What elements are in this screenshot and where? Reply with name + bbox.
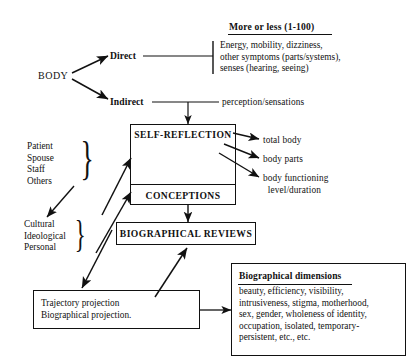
box-internal-divider [131,184,235,185]
biographical-reviews-label: BIOGRAPHICAL REVIEWS [116,228,256,239]
arrow-down-to-trajectory [82,230,112,288]
influence-group-persons: Patient Spouse Staff Others [27,141,54,187]
arrow-to-total-body [233,133,259,139]
biographical-dimensions-underline [238,284,352,285]
biographical-dimensions-body: beauty, efficiency, visibility, intrusiv… [239,286,369,344]
biographical-dimensions-heading: Biographical dimensions [239,271,341,283]
body-label: BODY [38,70,68,82]
conceptions-label: CONCEPTIONS [130,190,236,201]
branch-label-indirect: Indirect [110,96,144,108]
arrow-body-to-indirect [72,79,108,99]
brace-contexts: } [75,215,86,253]
scale-note: More or less (1-100) [229,21,314,33]
influence-group-contexts: Cultural Ideological Personal [24,219,66,254]
arrow-persons-to-contexts [47,186,74,217]
branch-label-direct: Direct [110,50,136,62]
brace-persons: } [80,136,93,182]
arrow-body-to-direct [72,56,108,73]
self-reflection-label: SELF-REFLECTION [130,129,236,140]
trajectory-projection-label: Trajectory projection Biographical proje… [41,298,131,321]
output-body-parts: body parts [263,154,303,166]
direct-detail-text: Energy, mobility, dizziness, other sympt… [220,40,341,75]
output-body-functioning: body functioning level/duration [263,173,328,196]
scale-note-underline [228,34,332,35]
diagram-canvas: More or less (1-100) BODY Direct Indirec… [0,0,420,362]
output-total-body: total body [263,135,301,147]
indirect-detail-text: perception/sensations [222,97,304,109]
arrow-persons-to-self-reflection [102,158,131,215]
